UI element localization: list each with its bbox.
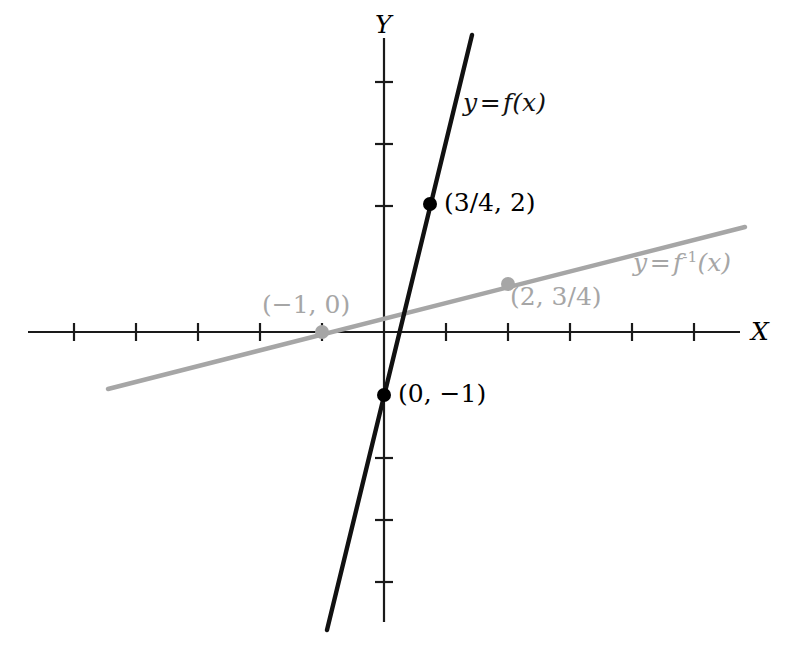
curve-label-f-equals: = <box>477 88 503 117</box>
curve-label-finv-equals: = <box>647 248 673 277</box>
curve-label-f: y=f(x) <box>463 90 546 115</box>
curve-label-f-expression: f(x) <box>503 88 546 117</box>
point-label-three-quarters-two: (3/4, 2) <box>444 190 536 215</box>
point-label-minus-one-zero: (−1, 0) <box>262 292 350 317</box>
curve-label-f-y: y <box>463 88 477 117</box>
curve-label-finv-y: y <box>633 248 647 277</box>
graph-figure: X Y y=f(x) y=f-1(x) (3/4, 2) (0, −1) (2,… <box>0 0 791 654</box>
curve-label-finv-exponent: -1 <box>682 248 697 266</box>
point-label-two-three-quarters: (2, 3/4) <box>510 284 602 309</box>
x-axis-label: X <box>751 319 769 344</box>
curve-label-f-inverse: y=f-1(x) <box>633 250 731 275</box>
y-axis-label: Y <box>375 12 392 37</box>
curve-label-finv-f: f <box>673 248 682 277</box>
coordinate-plane <box>0 0 791 654</box>
point-three-quarters-two <box>423 197 437 211</box>
point-zero-minus-one <box>377 388 391 402</box>
curve-label-finv-argument: (x) <box>697 248 731 277</box>
point-label-zero-minus-one: (0, −1) <box>398 381 486 406</box>
point-minus-one-zero <box>315 325 329 339</box>
